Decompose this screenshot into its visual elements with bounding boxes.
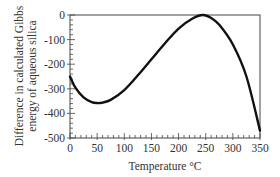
x-tick-label: 300 (224, 142, 242, 154)
gibbs-energy-chart: 050100150200250300350 0-100-200-300-400-… (0, 0, 280, 177)
plot-frame (70, 15, 260, 138)
x-axis-ticks (70, 133, 260, 140)
y-tick-label: -500 (44, 132, 65, 144)
y-axis-title-line-1: Difference in calculated Gibbs (13, 5, 25, 146)
x-tick-label: 350 (251, 142, 269, 154)
y-tick-label: -400 (44, 107, 65, 119)
x-tick-label: 0 (67, 142, 73, 154)
x-tick-label: 150 (143, 142, 161, 154)
y-axis-title-line-2: energy of aqueous silica (26, 20, 39, 131)
y-tick-label: -200 (44, 58, 65, 70)
x-axis-title: Temperature °C (128, 160, 201, 173)
y-tick-label: -300 (44, 83, 65, 95)
x-tick-label: 250 (197, 142, 215, 154)
x-tick-label: 50 (91, 142, 103, 154)
x-tick-label: 100 (116, 142, 134, 154)
x-axis-tick-labels: 050100150200250300350 (67, 142, 269, 154)
y-axis-title: Difference in calculated Gibbs energy of… (13, 5, 39, 146)
x-tick-label: 200 (170, 142, 188, 154)
y-axis-tick-labels: 0-100-200-300-400-500 (44, 9, 65, 144)
y-tick-label: -100 (44, 34, 65, 46)
data-line (70, 15, 260, 131)
y-tick-label: 0 (59, 9, 65, 21)
